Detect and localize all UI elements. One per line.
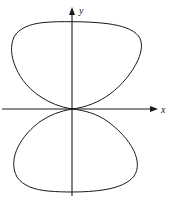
x-axis-label: x	[160, 104, 166, 115]
plot-background	[0, 0, 173, 208]
y-axis-label: y	[78, 5, 84, 16]
figure-container: y x	[0, 0, 173, 208]
plot-svg: y x	[0, 0, 173, 208]
